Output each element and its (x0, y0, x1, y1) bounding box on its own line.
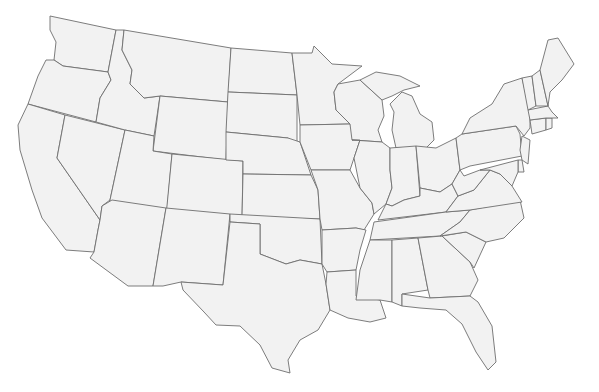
state-delaware[interactable]: Delaware (518, 160, 524, 172)
states-layer: WashingtonOregonCaliforniaNevadaIdahoMon… (18, 16, 574, 373)
state-montana[interactable]: Montana (122, 30, 231, 102)
state-wyoming[interactable]: Wyoming (153, 96, 228, 160)
state-arizona[interactable]: Arizona (90, 200, 166, 286)
state-rhode-island[interactable]: Rhode Island (546, 118, 552, 130)
us-map: WashingtonOregonCaliforniaNevadaIdahoMon… (0, 0, 599, 392)
state-kansas[interactable]: Kansas (242, 174, 320, 219)
state-florida[interactable]: Florida (402, 294, 496, 370)
state-connecticut[interactable]: Connecticut (530, 118, 546, 134)
state-new-mexico[interactable]: New Mexico (153, 208, 230, 286)
state-michigan[interactable]: Michigan (390, 92, 434, 148)
state-mississippi[interactable]: Mississippi (356, 240, 392, 302)
us-states-outline-map: WashingtonOregonCaliforniaNevadaIdahoMon… (0, 0, 599, 392)
state-north-dakota[interactable]: North Dakota (228, 48, 297, 95)
state-new-york[interactable]: New York (462, 78, 530, 136)
state-arkansas[interactable]: Arkansas (322, 228, 366, 272)
